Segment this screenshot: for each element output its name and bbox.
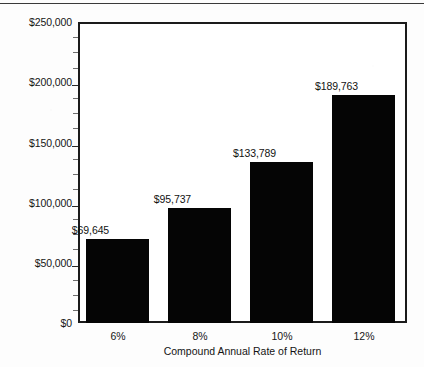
y-axis-tick-label-100000: $100,000 xyxy=(29,197,72,209)
y-axis-tick-label-200000: $200,000 xyxy=(29,76,72,88)
bar-value-label-10-percent: $133,789 xyxy=(210,147,299,159)
plot-area xyxy=(78,22,407,323)
bar-10-percent[interactable] xyxy=(250,162,313,323)
y-axis-tick-label-50000: $50,000 xyxy=(35,257,72,269)
y-axis-tick-label-150000: $150,000 xyxy=(29,137,72,149)
x-axis-tick-label-6-percent: 6% xyxy=(73,330,163,342)
x-axis-title: Compound Annual Rate of Return xyxy=(78,345,407,357)
bar-value-label-12-percent: $189,763 xyxy=(292,80,381,92)
y-axis-tick-label-250000: $250,000 xyxy=(29,16,72,28)
y-axis-label-group: $250,000 $200,000 $150,000 $100,000 $50,… xyxy=(0,0,72,367)
x-axis-tick-label-8-percent: 8% xyxy=(155,330,245,342)
y-axis-tick-label-0: $0 xyxy=(61,317,72,329)
bar-value-label-8-percent: $95,737 xyxy=(128,193,217,205)
bar-value-label-6-percent: $69,645 xyxy=(46,224,135,236)
x-axis-tick-label-12-percent: 12% xyxy=(319,330,409,342)
x-axis-tick-label-10-percent: 10% xyxy=(237,330,327,342)
bar-chart-figure: $250,000 $200,000 $150,000 $100,000 $50,… xyxy=(0,0,424,367)
bar-6-percent[interactable] xyxy=(86,239,149,323)
bar-8-percent[interactable] xyxy=(168,208,231,323)
bar-12-percent[interactable] xyxy=(332,95,395,323)
